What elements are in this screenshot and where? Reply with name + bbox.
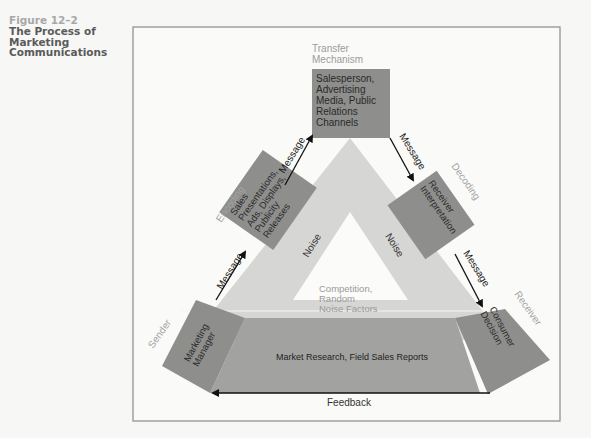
- communication-process-diagram: Transfer Mechanism Encoding Decoding Sen…: [0, 0, 591, 438]
- svg-text:Advertising: Advertising: [316, 84, 365, 95]
- svg-text:Channels: Channels: [316, 117, 358, 128]
- svg-text:Salesperson,: Salesperson,: [316, 73, 374, 84]
- svg-text:Noise Factors: Noise Factors: [319, 303, 378, 314]
- svg-text:Relations: Relations: [316, 106, 358, 117]
- transfer-label-2: Mechanism: [312, 54, 363, 65]
- svg-text:Media, Public: Media, Public: [316, 95, 376, 106]
- feedback-label: Feedback: [327, 397, 372, 408]
- base-band-label: Market Research, Field Sales Reports: [276, 352, 429, 362]
- transfer-label-1: Transfer: [312, 43, 350, 54]
